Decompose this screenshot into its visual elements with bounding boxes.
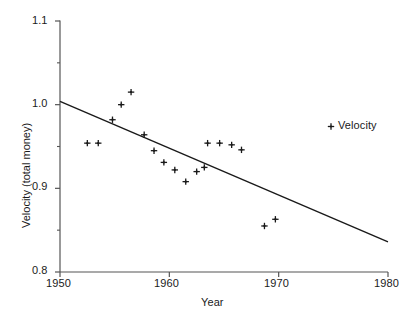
data-point-marker: [201, 164, 207, 170]
velocity-scatter-chart: 1.1 1.0 0.9 0.8 1950 1960 1970 1980 Year…: [0, 0, 418, 320]
y-tick-label-1-1: 1.1: [32, 15, 48, 26]
data-point-marker: [183, 178, 189, 184]
data-point-markers: [84, 89, 278, 229]
x-axis-ticks: [60, 272, 388, 277]
data-point-marker: [193, 168, 199, 174]
legend-entry-velocity-label: Velocity: [338, 120, 377, 131]
data-point-marker: [128, 89, 134, 95]
data-point-marker: [238, 147, 244, 153]
data-point-marker: [161, 159, 167, 165]
x-tick-label-1950: 1950: [46, 278, 71, 289]
data-point-marker: [261, 223, 267, 229]
x-tick-label-1980: 1980: [374, 278, 399, 289]
data-point-marker: [151, 147, 157, 153]
axis-lines: [60, 21, 388, 273]
y-tick-label-0-8: 0.8: [32, 265, 48, 276]
data-point-marker: [228, 142, 234, 148]
y-tick-label-0-9: 0.9: [32, 181, 48, 192]
y-tick-label-1-0: 1.0: [32, 98, 48, 109]
data-point-marker: [272, 216, 278, 222]
data-point-marker: [118, 101, 124, 107]
data-point-marker: [216, 140, 222, 146]
plot-area: [0, 0, 418, 320]
data-point-marker: [84, 140, 90, 146]
y-axis-title: Velocity (total money): [20, 123, 32, 228]
data-point-marker: [95, 140, 101, 146]
data-point-marker: [109, 117, 115, 123]
x-tick-label-1970: 1970: [264, 278, 289, 289]
y-axis-ticks: [55, 21, 60, 272]
legend-marker-icon: [328, 123, 334, 129]
data-point-marker: [204, 140, 210, 146]
x-tick-label-1960: 1960: [154, 278, 179, 289]
x-axis-title: Year: [201, 297, 224, 308]
data-point-marker: [172, 167, 178, 173]
